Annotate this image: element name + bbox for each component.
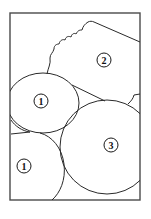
label-1-upper: 1 — [34, 94, 48, 108]
region-1-lower-arc — [40, 133, 64, 200]
region-2-boundary — [47, 21, 140, 74]
svg-text:2: 2 — [102, 55, 107, 66]
label-1-lower: 1 — [17, 159, 31, 173]
region-diagram: 2 1 3 1 — [0, 0, 151, 219]
label-2: 2 — [97, 53, 111, 67]
label-3: 3 — [104, 138, 118, 152]
svg-text:3: 3 — [109, 140, 114, 151]
svg-text:1: 1 — [22, 161, 27, 172]
svg-text:1: 1 — [39, 96, 44, 107]
outer-frame — [10, 13, 140, 200]
right-edge-segment — [128, 94, 140, 104]
